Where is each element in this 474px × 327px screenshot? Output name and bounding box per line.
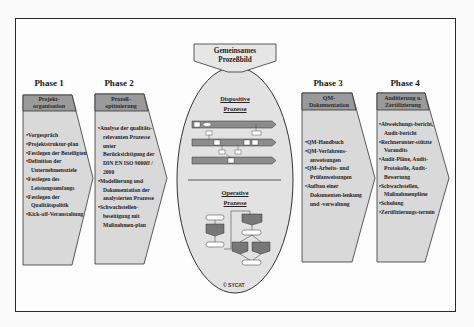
list-item: Schwachstellen, Maßnahmenpläne — [379, 182, 441, 200]
list-item: Festlegen des Leistungsumfangs — [26, 175, 90, 193]
list-item: Zertifizierungs-termin — [379, 208, 441, 217]
phase-1-header-line-2: organisation — [24, 103, 74, 110]
label-line-2: Prozeßbild — [196, 56, 274, 65]
list-item: Abweichungs-bericht, Audit-bericht — [379, 120, 441, 138]
list-item: Aufbau einer Dokumenten-lenkung und -ver… — [305, 182, 367, 208]
dispositive-line-2: Prozesse — [200, 104, 270, 114]
phase-4-header-line-2: Zertifizierung — [378, 102, 428, 109]
phase-1-title: Phase 1 — [14, 78, 84, 88]
list-item: Rechnerunter-stützte Voraudits — [379, 138, 441, 156]
list-item: QM-Handbuch — [305, 138, 367, 147]
list-item: Vorgespräch — [26, 131, 90, 140]
dispositive-process-lanes — [192, 121, 276, 164]
operative-line-2: Prozesse — [200, 198, 270, 208]
phase-2-header: Prozeß- optimierung — [96, 96, 146, 109]
list-item: QM-Verfahrens-anweisungen — [305, 147, 367, 165]
list-item: Schwachstellen-beseitigung mit Maßnahmen… — [98, 203, 156, 229]
list-item: Projektstruktur-plan — [26, 140, 90, 149]
operative-line-1: Operative — [200, 188, 270, 198]
phase-4-header-line-1: Auditierung u. — [378, 95, 428, 102]
phase-1-header: Projekt- organisation — [24, 96, 74, 109]
phase-2-title: Phase 2 — [84, 78, 154, 88]
phase-2-items: Analyse der qualitäts-relevanten Prozess… — [98, 124, 156, 230]
list-item: Festlegen der Beteiligten — [26, 149, 90, 158]
list-item: Analyse der qualitäts-relevanten Prozess… — [98, 124, 156, 177]
phase-3-header: QM- Dokumentation — [303, 95, 355, 108]
phase-4-title: Phase 4 — [370, 78, 440, 88]
list-item: Festlegen der Qualitätspolitik — [26, 193, 90, 211]
list-item: Schulung — [379, 199, 441, 208]
list-item: Kick-off-Veranstaltung — [26, 210, 90, 219]
list-item: Audit-Pläne, Audit-Protokolle, Audit-Bew… — [379, 155, 441, 181]
label-line-1: Gemeinsames — [196, 47, 274, 56]
phase-3-header-line-2: Dokumentation — [303, 102, 355, 109]
phase-4-header: Auditierung u. Zertifizierung — [378, 95, 428, 108]
phase-1-items: Vorgespräch Projektstruktur-plan Festleg… — [26, 131, 90, 219]
dispositive-processes-title: Dispositive Prozesse — [200, 94, 270, 113]
process-image-label: Gemeinsames Prozeßbild — [196, 47, 274, 65]
phase-2-header-line-2: optimierung — [96, 103, 146, 110]
list-item: Definition der Unternehmensziele — [26, 157, 90, 175]
dispositive-line-1: Dispositive — [200, 94, 270, 104]
phase-3-items: QM-Handbuch QM-Verfahrens-anweisungen QM… — [305, 138, 367, 208]
phase-4-items: Abweichungs-bericht, Audit-bericht Rechn… — [379, 120, 441, 217]
copyright-label: © SYCAT — [223, 282, 245, 288]
operative-processes-title: Operative Prozesse — [200, 188, 270, 207]
list-item: QM-Arbeits- und Prüfanweisungen — [305, 164, 367, 182]
phase-3-title: Phase 3 — [293, 78, 363, 88]
list-item: Modellierung und Dokumentation der analy… — [98, 177, 156, 203]
